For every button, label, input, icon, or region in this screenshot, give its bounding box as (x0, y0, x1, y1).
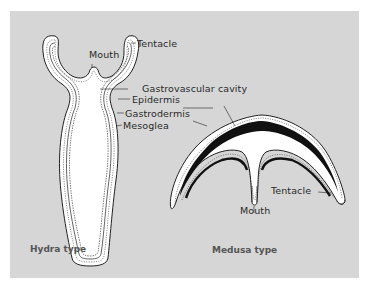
hydra-caption: Hydra type (30, 245, 86, 254)
hydra-body (43, 36, 139, 266)
hydra-label-mesoglea: Mesoglea (123, 121, 169, 131)
hydra-label-gastrovascular-cavity: Gastrovascular cavity (142, 84, 247, 94)
medusa-label-tentacle: Tentacle (271, 186, 311, 196)
hydra-label-tentacle: Tentacle (137, 39, 177, 49)
medusa-body (170, 115, 345, 209)
hydra-label-mouth: Mouth (89, 50, 119, 60)
medusa-label-mouth: Mouth (240, 206, 270, 216)
hydra-label-epidermis: Epidermis (132, 95, 180, 105)
medusa-caption: Medusa type (212, 246, 277, 255)
hydra-label-gastrodermis: Gastrodermis (125, 109, 190, 119)
